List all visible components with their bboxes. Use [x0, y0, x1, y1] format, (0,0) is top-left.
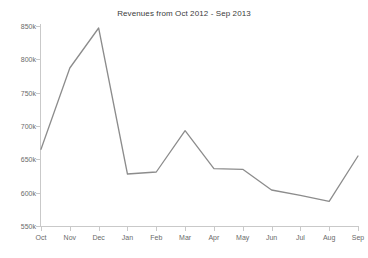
series-layer	[0, 0, 368, 258]
revenue-series-line	[41, 28, 358, 201]
revenue-line-chart: Revenues from Oct 2012 - Sep 2013 550k60…	[0, 0, 368, 258]
